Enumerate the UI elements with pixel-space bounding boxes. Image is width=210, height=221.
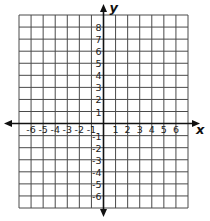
y-tick-label: 8 [95, 22, 101, 33]
y-tick-label: 1 [95, 107, 101, 118]
y-tick-label: -1 [92, 131, 101, 142]
x-axis-title: x [195, 122, 205, 137]
y-tick-label: 6 [95, 46, 101, 57]
x-tick-label: -4 [50, 124, 59, 135]
y-tick-label: 7 [95, 34, 101, 45]
x-tick-label: 1 [113, 124, 119, 135]
y-tick-label: 4 [95, 70, 101, 81]
y-tick-label: -3 [92, 155, 101, 166]
y-tick-label: 2 [95, 94, 101, 105]
y-tick-label: 3 [95, 82, 101, 93]
y-axis-arrow-down-icon [100, 209, 107, 217]
x-tick-label: -5 [38, 124, 47, 135]
coordinate-grid: -6-5-4-3-2-1123456 87654321-1-2-3-4-5-6 … [0, 0, 210, 221]
y-tick-label: 5 [95, 58, 101, 69]
y-axis-arrow-up-icon [100, 4, 107, 12]
x-tick-label: 2 [125, 124, 131, 135]
y-tick-label: -6 [92, 191, 101, 202]
x-tick-label: 5 [161, 124, 167, 135]
x-axis-arrow-left-icon [4, 120, 12, 127]
x-tick-label: 3 [137, 124, 143, 135]
x-tick-label: -3 [63, 124, 72, 135]
y-tick-label: -4 [92, 167, 101, 178]
x-tick-label: 4 [149, 124, 155, 135]
y-axis-title: y [110, 0, 119, 15]
x-tick-label: 6 [173, 124, 179, 135]
y-tick-label: -2 [92, 143, 101, 154]
axes [4, 4, 200, 217]
x-tick-labels: -6-5-4-3-2-1123456 [26, 124, 179, 135]
x-tick-label: -6 [26, 124, 35, 135]
x-tick-label: -2 [75, 124, 84, 135]
y-tick-label: -5 [92, 179, 101, 190]
